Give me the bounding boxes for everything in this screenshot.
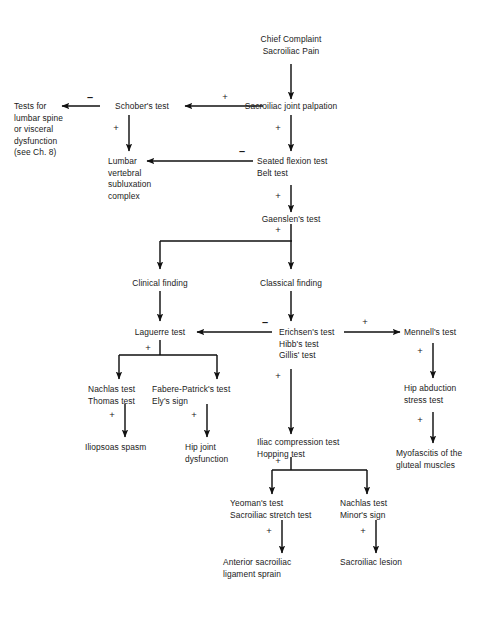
node-myofascitis-gluteal: Myofascitis of the gluteal muscles bbox=[396, 448, 462, 471]
node-nachlas-minors-sign: Nachlas test Minor's sign bbox=[340, 498, 387, 521]
node-si-joint-palpation: Sacroiliac joint palpation bbox=[245, 101, 338, 113]
sign-palpation-to-seated: + bbox=[275, 123, 281, 133]
edge-gaenslen-split-bar bbox=[160, 224, 292, 241]
flowchart-edges bbox=[0, 0, 497, 626]
sign-mennell-to-hipabd: + bbox=[417, 346, 423, 356]
node-sacroiliac-lesion: Sacroiliac lesion bbox=[340, 557, 402, 569]
sign-laguerre-split: + bbox=[145, 343, 151, 353]
node-clinical-finding: Clinical finding bbox=[132, 278, 187, 290]
sign-yeoman-to-sprain: + bbox=[266, 526, 272, 536]
node-laguerre-test: Laguerre test bbox=[135, 327, 185, 339]
sign-erichsen-to-laguerre: – bbox=[262, 318, 268, 328]
sign-schober-to-tests: – bbox=[87, 93, 93, 103]
node-lumbar-vsc: Lumbar vertebral subluxation complex bbox=[108, 156, 151, 202]
sign-nachlas-to-lesion: + bbox=[360, 526, 366, 536]
node-mennells-test: Mennell's test bbox=[404, 327, 456, 339]
node-classical-finding: Classical finding bbox=[260, 278, 322, 290]
sign-erichsen-to-mennell: + bbox=[362, 317, 368, 327]
node-iliac-compression-hopping: Iliac compression test Hopping test bbox=[257, 437, 339, 460]
node-hip-abduction-stress: Hip abduction stress test bbox=[404, 383, 456, 406]
node-erichsen-hibb-gillis: Erichsen's test Hibb's test Gillis' test bbox=[279, 327, 334, 362]
node-iliopsoas-spasm: Iliopsoas spasm bbox=[85, 442, 146, 454]
flowchart-canvas: Chief Complaint Sacroiliac Pain Sacroili… bbox=[0, 0, 497, 626]
sign-gaenslen-split: + bbox=[275, 225, 281, 235]
node-fabere-ely: Fabere-Patrick's test Ely's sign bbox=[152, 384, 230, 407]
node-yeoman-si-stretch: Yeoman's test Sacroiliac stretch test bbox=[230, 498, 312, 521]
sign-seated-to-gaenslen: + bbox=[275, 191, 281, 201]
node-nachlas-thomas: Nachlas test Thomas test bbox=[88, 384, 135, 407]
sign-fabere-to-hipjoint: + bbox=[191, 410, 197, 420]
sign-palpation-to-schober: + bbox=[222, 92, 228, 102]
node-anterior-si-ligament-sprain: Anterior sacroiliac ligament sprain bbox=[223, 557, 291, 580]
sign-iliac-split: + bbox=[275, 456, 281, 466]
node-tests-lumbar-spine: Tests for lumbar spine or visceral dysfu… bbox=[14, 101, 63, 159]
sign-nachlas-to-iliopsoas: + bbox=[109, 410, 115, 420]
sign-erichsen-to-iliac: + bbox=[275, 371, 281, 381]
sign-seated-to-lumbar: – bbox=[239, 147, 245, 157]
sign-hipabd-to-myofascitis: + bbox=[417, 415, 423, 425]
node-hip-joint-dysfunction: Hip joint dysfunction bbox=[185, 442, 228, 465]
edge-laguerre-split-bar bbox=[119, 340, 217, 355]
node-gaenslens-test: Gaenslen's test bbox=[262, 214, 321, 226]
node-schobers-test: Schober's test bbox=[115, 101, 169, 113]
sign-schober-to-lumbar: + bbox=[113, 123, 119, 133]
node-chief-complaint: Chief Complaint Sacroiliac Pain bbox=[261, 34, 322, 57]
node-seated-flexion-belt: Seated flexion test Belt test bbox=[257, 156, 328, 179]
